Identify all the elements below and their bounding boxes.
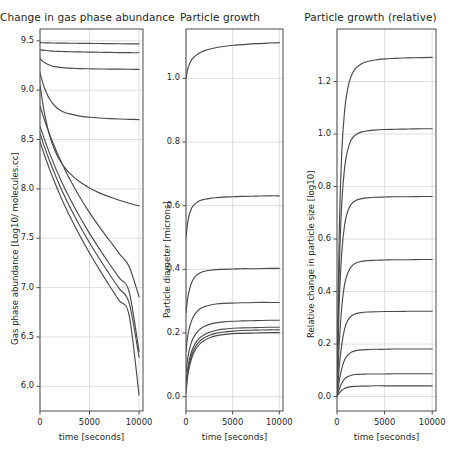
x-tick-label: 10000 — [407, 417, 451, 427]
x-tick-label: 5000 — [360, 417, 410, 427]
y-tick-label: 1.0 — [146, 72, 180, 82]
y-tick-label: 8.5 — [0, 134, 34, 144]
panel-particle-growth-relative: Particle growth (relative) Relative chan… — [290, 0, 451, 470]
y-tick-label: 9.5 — [0, 35, 34, 45]
y-tick-label: 0.6 — [146, 200, 180, 210]
y-tick-label: 0.8 — [146, 136, 180, 146]
y-tick-label: 0.4 — [297, 286, 331, 296]
x-tick-label: 0 — [161, 417, 211, 427]
x-tick-label: 0 — [312, 417, 362, 427]
y-tick-label: 9.0 — [0, 84, 34, 94]
x-axis-label: time [seconds] — [186, 432, 283, 442]
figure-canvas: Change in gas phase abundance Gas phase … — [0, 0, 451, 470]
x-axis-label: time [seconds] — [337, 432, 436, 442]
panel-gas-phase-abundance: Change in gas phase abundance Gas phase … — [0, 0, 150, 470]
panel-particle-growth: Particle growth Particle diameter [micro… — [150, 0, 290, 470]
y-tick-label: 7.0 — [0, 282, 34, 292]
y-tick-label: 6.5 — [0, 331, 34, 341]
x-tick-label: 5000 — [208, 417, 258, 427]
y-tick-label: 0.0 — [146, 391, 180, 401]
y-tick-label: 0.2 — [146, 327, 180, 337]
y-tick-label: 1.2 — [297, 76, 331, 86]
y-tick-label: 6.0 — [0, 380, 34, 390]
x-tick-label: 0 — [15, 417, 65, 427]
x-axis-label: time [seconds] — [40, 432, 143, 442]
y-tick-label: 0.2 — [297, 338, 331, 348]
y-tick-label: 0.6 — [297, 233, 331, 243]
y-tick-label: 0.0 — [297, 391, 331, 401]
y-tick-label: 1.0 — [297, 128, 331, 138]
y-tick-label: 0.8 — [297, 181, 331, 191]
x-tick-label: 5000 — [65, 417, 115, 427]
y-tick-label: 8.0 — [0, 183, 34, 193]
y-tick-label: 0.4 — [146, 263, 180, 273]
y-tick-label: 7.5 — [0, 232, 34, 242]
